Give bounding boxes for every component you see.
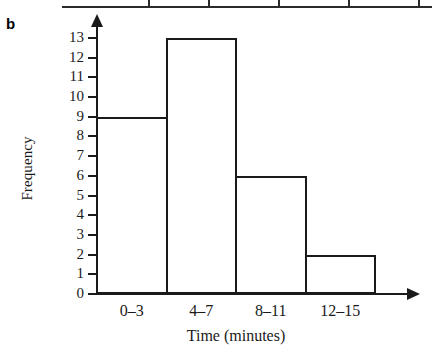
y-axis-tick <box>88 214 96 216</box>
y-axis-label: Frequency <box>19 124 36 214</box>
y-axis-tick-label: 9 <box>62 109 84 124</box>
y-axis-tick <box>88 37 96 39</box>
y-axis-arrowhead <box>91 14 103 27</box>
y-axis-tick-label: 13 <box>62 30 84 45</box>
bar <box>96 117 168 294</box>
y-axis-tick <box>88 96 96 98</box>
y-axis-tick-label: 2 <box>62 247 84 262</box>
y-axis-tick <box>88 57 96 59</box>
y-axis-tick <box>88 293 96 295</box>
y-axis-tick-label: 11 <box>62 69 84 84</box>
y-axis-tick <box>88 76 96 78</box>
y-axis-tick <box>88 155 96 157</box>
y-axis-tick-label: 0 <box>62 286 84 301</box>
x-axis-label: Time (minutes) <box>97 327 375 345</box>
y-axis-tick <box>88 175 96 177</box>
y-axis-tick-label: 4 <box>62 207 84 222</box>
y-axis-tick <box>88 195 96 197</box>
y-axis-tick-label: 1 <box>62 266 84 281</box>
y-axis-tick-label: 3 <box>62 227 84 242</box>
bar <box>235 176 307 294</box>
y-axis-tick <box>88 135 96 137</box>
histogram-chart: Frequency Time (minutes) 012345678910111… <box>0 0 432 349</box>
bar <box>305 255 377 294</box>
y-axis-tick <box>88 234 96 236</box>
y-axis-tick-label: 12 <box>62 50 84 65</box>
x-axis-tick-label: 12–15 <box>295 302 385 319</box>
x-axis-arrowhead <box>407 288 420 300</box>
y-axis-tick-label: 7 <box>62 148 84 163</box>
y-axis-tick-label: 8 <box>62 128 84 143</box>
bar <box>166 38 238 294</box>
y-axis-tick-label: 10 <box>62 89 84 104</box>
y-axis-tick <box>88 254 96 256</box>
y-axis-tick <box>88 116 96 118</box>
y-axis-tick-label: 6 <box>62 168 84 183</box>
y-axis-tick-label: 5 <box>62 188 84 203</box>
y-axis-tick <box>88 273 96 275</box>
